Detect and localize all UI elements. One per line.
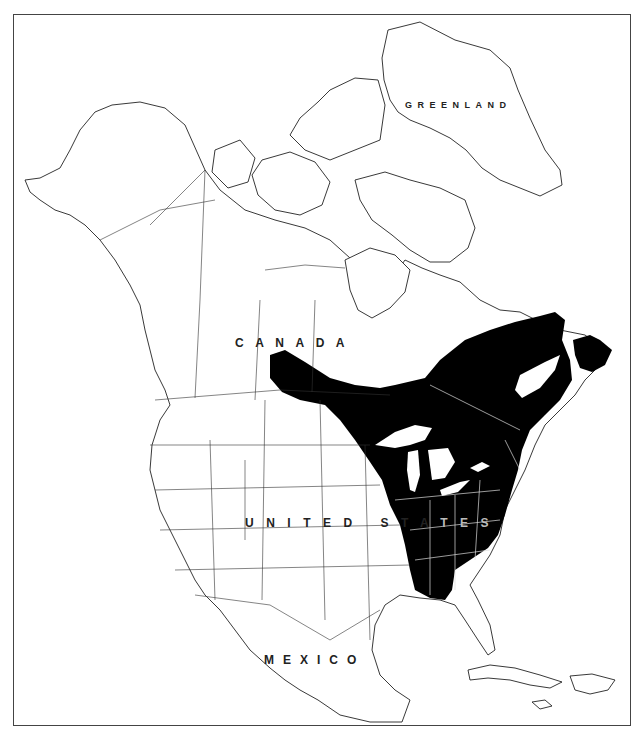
victoria-island (252, 152, 330, 215)
banks-island (212, 140, 255, 188)
jamaica (532, 700, 552, 709)
hispaniola (570, 674, 615, 694)
label-united-states: UNITED STATES (245, 516, 501, 530)
ellesmere-island (290, 78, 385, 160)
label-greenland: GREENLAND (405, 100, 512, 110)
label-united-states-dark: TES (440, 516, 501, 530)
label-mexico: MEXICO (264, 653, 365, 667)
north-america-map (0, 0, 635, 734)
label-united-states-light: UNITED STA (245, 516, 440, 530)
label-canada: CANADA (235, 336, 356, 350)
cuba (468, 665, 562, 688)
